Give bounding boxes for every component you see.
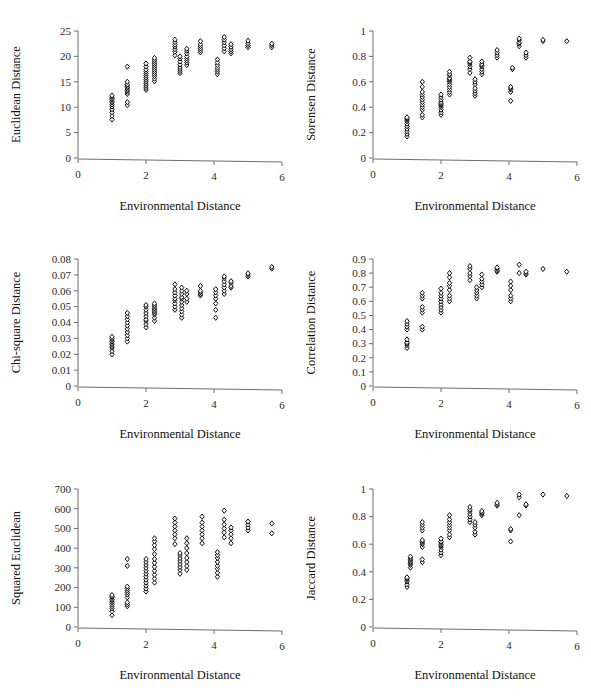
y-tick-label: 0.03 <box>52 332 72 344</box>
data-point-marker <box>420 79 424 84</box>
panel-correlation: 00.10.20.30.40.50.60.70.80.90246Environm… <box>295 228 591 458</box>
x-axis-title: Environmental Distance <box>119 668 241 682</box>
data-point-marker <box>565 39 569 44</box>
y-tick-label: 600 <box>55 503 72 515</box>
y-tick-label: 0.8 <box>352 267 366 279</box>
y-tick-label: 10 <box>60 101 72 113</box>
y-axis-ticks: 00.20.40.60.81 <box>352 483 373 633</box>
x-tick-label: 2 <box>438 638 444 650</box>
data-points <box>110 264 274 357</box>
data-points <box>110 34 274 121</box>
plot-svg-chisquare: 00.010.020.030.040.050.060.070.080246Env… <box>0 228 296 458</box>
y-axis-title: Sorensen Distance <box>304 48 318 141</box>
y-tick-label: 0.06 <box>52 285 72 297</box>
data-point-marker <box>185 536 189 541</box>
data-point-marker <box>439 286 443 291</box>
x-tick-label: 6 <box>279 640 285 652</box>
data-point-marker <box>125 556 129 561</box>
x-tick-label: 2 <box>438 169 444 181</box>
x-axis-ticks: 0246 <box>75 159 285 183</box>
y-tick-label: 500 <box>55 522 72 534</box>
panel-squared-euclidean: 01002003004005006007000246Environmental … <box>0 458 296 699</box>
x-tick-label: 0 <box>370 168 376 180</box>
x-axis-line <box>373 387 577 390</box>
y-tick-label: 5 <box>66 126 72 138</box>
y-tick-label: 0.4 <box>352 323 366 335</box>
data-points <box>405 36 569 139</box>
data-point-marker <box>541 492 545 497</box>
data-point-marker <box>222 517 226 522</box>
x-tick-label: 4 <box>506 639 512 651</box>
y-tick-label: 0.1 <box>352 366 366 378</box>
y-axis-title: Euclidean Distance <box>9 46 23 143</box>
x-axis-title: Environmental Distance <box>119 427 241 441</box>
y-tick-label: 25 <box>60 25 72 37</box>
x-axis-title: Environmental Distance <box>414 668 536 682</box>
x-axis-ticks: 0246 <box>370 159 580 183</box>
data-point-marker <box>214 307 218 312</box>
y-tick-label: 0.05 <box>52 300 72 312</box>
panel-chisquare: 00.010.020.030.040.050.060.070.080246Env… <box>0 228 296 458</box>
x-tick-label: 2 <box>143 397 149 409</box>
x-axis-ticks: 0246 <box>370 628 580 652</box>
y-tick-label: 100 <box>55 601 72 613</box>
y-tick-label: 0.2 <box>352 126 366 138</box>
x-tick-label: 4 <box>211 639 217 651</box>
x-tick-label: 6 <box>574 399 580 411</box>
y-tick-label: 0.2 <box>352 352 366 364</box>
y-tick-label: 200 <box>55 581 72 593</box>
x-axis-title: Environmental Distance <box>414 427 536 441</box>
y-tick-label: 0.9 <box>352 253 366 265</box>
y-tick-label: 0.5 <box>352 309 366 321</box>
y-tick-label: 0.3 <box>352 337 366 349</box>
x-tick-label: 6 <box>279 171 285 183</box>
x-axis-line <box>373 628 577 631</box>
data-point-marker <box>270 521 274 526</box>
x-axis-ticks: 0246 <box>75 628 285 652</box>
plot-svg-correlation: 00.10.20.30.40.50.60.70.80.90246Environm… <box>295 228 591 458</box>
y-tick-label: 0.8 <box>352 50 366 62</box>
x-tick-label: 6 <box>574 171 580 183</box>
y-tick-label: 400 <box>55 542 72 554</box>
y-tick-label: 0 <box>361 621 367 633</box>
data-point-marker <box>480 272 484 277</box>
x-tick-label: 0 <box>75 168 81 180</box>
panel-euclidean: 05101520250246Environmental DistanceEucl… <box>0 0 296 230</box>
x-axis-line <box>78 159 282 162</box>
y-tick-label: 0.7 <box>352 281 366 293</box>
y-axis-title: Squared Euclidean <box>9 510 23 605</box>
data-point-marker <box>565 269 569 274</box>
data-point-marker <box>509 98 513 103</box>
x-tick-label: 4 <box>211 170 217 182</box>
data-points <box>110 508 274 618</box>
plot-svg-jaccard: 00.20.40.60.810246Environmental Distance… <box>295 458 591 699</box>
data-point-marker <box>447 513 451 518</box>
y-tick-label: 0.01 <box>52 364 71 376</box>
y-tick-label: 1 <box>361 25 367 37</box>
data-point-marker <box>517 271 521 276</box>
x-tick-label: 2 <box>438 397 444 409</box>
panel-sorensen: 00.20.40.60.810246Environmental Distance… <box>295 0 591 230</box>
y-axis-ticks: 00.20.40.60.81 <box>352 25 373 164</box>
x-tick-label: 0 <box>75 396 81 408</box>
data-point-marker <box>509 539 513 544</box>
data-point-marker <box>200 520 204 525</box>
y-axis-ticks: 00.010.020.030.040.050.060.070.08 <box>52 253 78 392</box>
figure-container: 05101520250246Environmental DistanceEucl… <box>0 0 591 699</box>
data-point-marker <box>270 531 274 536</box>
y-tick-label: 0.6 <box>352 295 366 307</box>
data-point-marker <box>447 271 451 276</box>
y-tick-label: 0.6 <box>352 76 366 88</box>
data-point-marker <box>200 514 204 519</box>
data-point-marker <box>125 64 129 69</box>
y-tick-label: 0 <box>66 380 72 392</box>
data-point-marker <box>125 563 129 568</box>
y-axis-title: Jaccard Distance <box>304 515 318 600</box>
data-point-marker <box>222 508 226 513</box>
y-tick-label: 700 <box>55 483 72 495</box>
x-axis-title: Environmental Distance <box>119 199 241 213</box>
y-tick-label: 0.8 <box>352 510 366 522</box>
x-axis-ticks: 0246 <box>370 387 580 411</box>
plot-svg-euclidean: 05101520250246Environmental DistanceEucl… <box>0 0 296 230</box>
y-axis-ticks: 0100200300400500600700 <box>55 483 79 633</box>
